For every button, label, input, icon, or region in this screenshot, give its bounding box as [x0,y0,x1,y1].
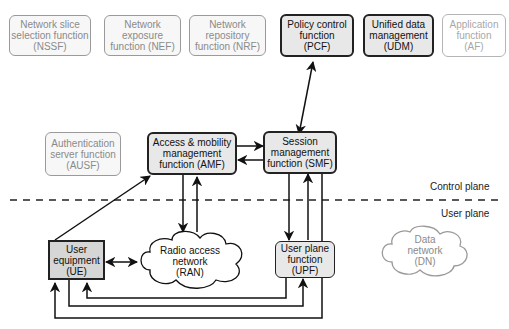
ausf-box: Authentication server function (AUSF) [45,132,121,176]
nef-box: Network exposure function (NEF) [104,15,181,56]
nssf-box: Network slice selection function (NSSF) [9,15,91,56]
dn-label: Data network (DN) [390,234,460,267]
user-plane-label: User plane [441,208,489,219]
af-box: Application function (AF) [442,14,506,57]
udm-box: Unified data management (UDM) [363,14,434,57]
ue-box: User equipment (UE) [48,240,105,280]
ue-to-amf-link [55,176,150,240]
network-architecture-diagram: Network slice selection function (NSSF) … [0,0,509,329]
smf-box: Session management function (SMF) [263,131,337,174]
control-plane-label: Control plane [430,181,489,192]
nrf-box: Network repository function (NRF) [189,15,266,56]
amf-box: Access & mobility management function (A… [147,132,237,175]
upf-box: User plane function (UPF) [275,241,335,278]
ran-label: Radio access network (RAN) [150,245,230,278]
pcf-smf-link [299,62,313,134]
pcf-box: Policy control function (PCF) [280,14,354,57]
